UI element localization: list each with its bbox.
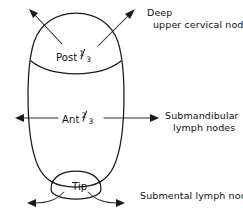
- arrow-line-submental-right: [88, 192, 118, 203]
- region-label-tip: Tip: [72, 181, 87, 193]
- fraction-one-third: 13: [79, 50, 92, 62]
- arrow-head-submental-left: [27, 199, 36, 207]
- region-label-anterior-two-thirds: Ant23: [62, 112, 94, 126]
- arrow-head-submental-right: [116, 199, 125, 207]
- callout-submandibular-line-2: lymph nodes: [173, 122, 239, 134]
- tongue-outline: [28, 13, 124, 187]
- callout-submental-lymph-nodes: Submental lymph nodes: [140, 190, 243, 202]
- fraction-denominator-two-thirds: 3: [88, 116, 93, 128]
- arrow-line-submental-left: [34, 192, 64, 203]
- arrow-line-deep-right: [98, 14, 130, 46]
- callout-deep-line-2: upper cervical nodes: [153, 19, 243, 31]
- arrow-line-deep-left: [34, 14, 62, 44]
- callout-deep-line-1: Deep: [147, 7, 172, 18]
- callout-deep-upper-cervical-nodes: Deepupper cervical nodes: [147, 7, 243, 30]
- region-label-posterior-third: Post13: [56, 50, 92, 64]
- region-label-anterior-text: Ant: [62, 114, 79, 125]
- fraction-two-thirds: 23: [81, 112, 94, 124]
- arrow-head-submandibular-left: [15, 114, 24, 122]
- tongue-lymphatic-drainage-diagram: Post13 Ant23 Tip Deepupper cervical node…: [0, 0, 243, 218]
- arrow-head-submandibular-right: [150, 114, 159, 122]
- diagram-canvas: [0, 0, 243, 218]
- region-label-posterior-text: Post: [56, 52, 77, 63]
- fraction-denominator-one-third: 3: [86, 54, 91, 66]
- callout-submandibular-lymph-nodes: Submandibularlymph nodes: [165, 110, 239, 133]
- callout-submandibular-line-1: Submandibular: [165, 110, 239, 121]
